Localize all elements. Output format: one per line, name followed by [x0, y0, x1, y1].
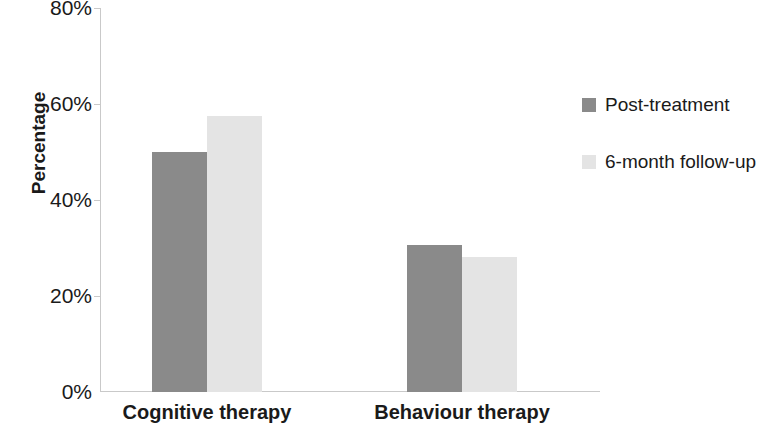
y-axis-tick-label: 60%: [24, 93, 92, 114]
legend-label: Post-treatment: [605, 92, 730, 118]
legend-swatch-icon: [582, 155, 596, 169]
x-axis-category-label: Behaviour therapy: [352, 398, 572, 426]
legend-item: Post-treatment: [582, 92, 730, 118]
y-axis-tick-mark: [94, 296, 100, 297]
y-axis-tick-label: 80%: [24, 0, 92, 18]
plot-area: [100, 8, 600, 392]
bar: [152, 152, 207, 392]
bar: [207, 116, 262, 392]
legend-swatch-icon: [582, 98, 596, 112]
legend-label: 6-month follow-up: [605, 149, 756, 175]
legend-item: 6-month follow-up: [582, 149, 756, 175]
x-axis-category-labels: Cognitive therapyBehaviour therapy: [100, 398, 600, 430]
y-axis-line: [100, 8, 101, 392]
y-axis-tick-mark: [94, 104, 100, 105]
bar-chart: Percentage 0%20%40%60%80% Cognitive ther…: [0, 0, 782, 439]
y-axis-tick-label: 20%: [24, 285, 92, 306]
bar: [407, 245, 462, 392]
y-axis-tick-mark: [94, 8, 100, 9]
y-axis-tick-label: 40%: [24, 189, 92, 210]
y-axis-tick-label: 0%: [24, 381, 92, 402]
y-axis-tick-mark: [94, 200, 100, 201]
y-axis-tick-labels: 0%20%40%60%80%: [20, 0, 92, 439]
x-axis-category-label: Cognitive therapy: [97, 398, 317, 426]
bar: [462, 257, 517, 392]
